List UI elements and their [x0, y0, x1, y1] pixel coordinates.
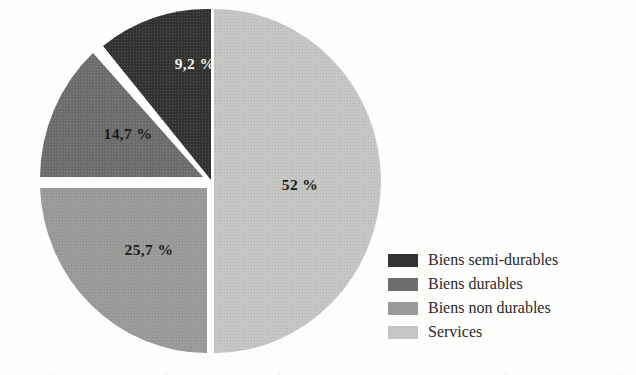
- legend: Biens semi-durables Biens durables Biens…: [388, 248, 628, 344]
- legend-swatch-icon: [388, 254, 418, 267]
- legend-item-services[interactable]: Services: [388, 320, 628, 344]
- legend-item-biens-semi-durables[interactable]: Biens semi-durables: [388, 248, 628, 272]
- legend-swatch-icon: [388, 326, 418, 339]
- legend-item-biens-non-durables[interactable]: Biens non durables: [388, 296, 628, 320]
- legend-swatch-icon: [388, 278, 418, 291]
- legend-item-label: Biens durables: [428, 276, 523, 292]
- pie-chart-figure: 9,2 % 14,7 % 25,7 % 52 % Biens semi-dura…: [0, 0, 636, 375]
- legend-item-label: Services: [428, 324, 482, 340]
- legend-item-label: Biens non durables: [428, 300, 551, 316]
- legend-item-biens-durables[interactable]: Biens durables: [388, 272, 628, 296]
- pie-slice-services[interactable]: [214, 9, 381, 353]
- pie-slice-biens-non-durables[interactable]: [40, 188, 207, 353]
- legend-item-label: Biens semi-durables: [428, 252, 558, 268]
- legend-swatch-icon: [388, 302, 418, 315]
- pie-slices-group: [40, 9, 381, 353]
